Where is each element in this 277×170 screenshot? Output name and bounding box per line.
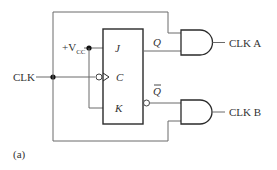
and-gate-a: [181, 30, 213, 55]
clock-inversion-bubble: [96, 74, 102, 80]
clk-a-output-label: CLK A: [229, 37, 261, 49]
jk-flipflop-clock-divider-diagram: CLK +VCC J C K Q Q CLK A CLK B (a): [0, 0, 277, 170]
vcc-label: +VCC: [62, 41, 86, 56]
pin-k-label: K: [114, 102, 123, 114]
clk-input-label: CLK: [13, 71, 35, 83]
q-bar-inversion-bubble: [144, 100, 150, 106]
clk-b-output-label: CLK B: [229, 106, 261, 118]
and-gate-b: [181, 100, 212, 124]
pin-c-label: C: [116, 71, 124, 83]
figure-caption: (a): [13, 148, 26, 161]
pin-q-label: Q: [153, 36, 161, 48]
pin-q-bar-label: Q: [153, 85, 161, 97]
